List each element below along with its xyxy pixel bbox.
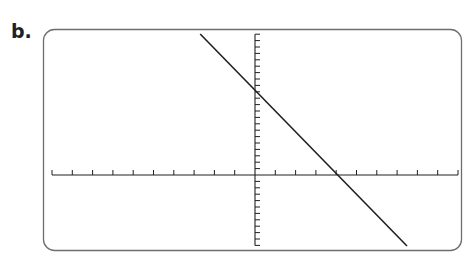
plotted-line [200,34,407,246]
screen-frame [44,30,462,251]
axes [52,34,458,245]
graphing-calculator-screen [0,0,470,261]
